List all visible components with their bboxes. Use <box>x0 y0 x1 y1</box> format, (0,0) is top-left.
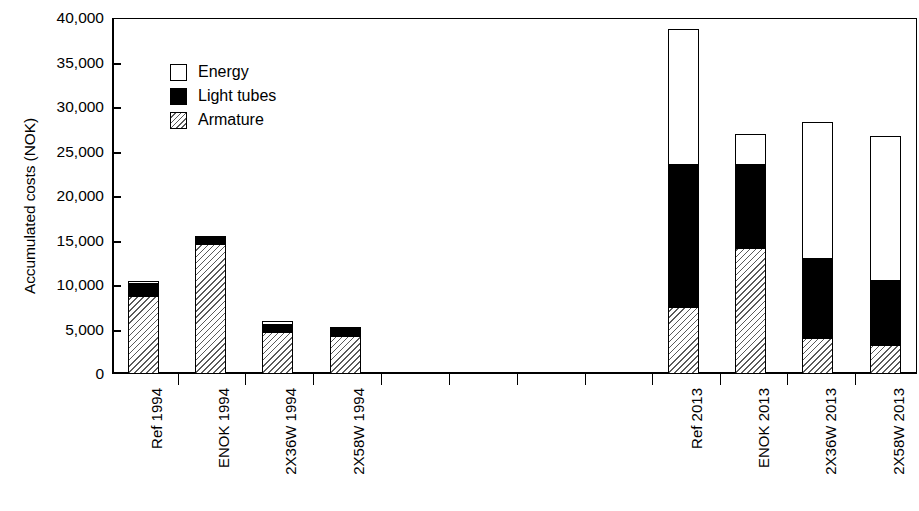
y-tick-label: 5,000 <box>34 322 104 338</box>
x-tick-mark <box>652 374 653 385</box>
y-tick-label: 35,000 <box>34 55 104 71</box>
bar-ref-1994 <box>128 18 159 374</box>
bar-segment-armature <box>262 332 293 374</box>
legend-label: Light tubes <box>198 88 276 104</box>
legend-swatch-energy-icon <box>170 64 187 81</box>
bar-segment-tubes <box>735 165 766 248</box>
bar-segment-tubes <box>262 325 293 332</box>
x-tick-mark <box>313 374 314 385</box>
bar-segment-energy <box>802 122 833 259</box>
y-tick-label: 30,000 <box>34 99 104 115</box>
x-tick-mark <box>585 374 586 385</box>
legend-swatch-light-tubes-icon <box>170 88 187 105</box>
x-tick-label: ENOK 2013 <box>756 388 771 508</box>
x-tick-mark <box>787 374 788 385</box>
bar-segment-tubes <box>668 165 699 307</box>
bar-ref-2013 <box>668 18 699 374</box>
bar-segment-tubes <box>870 281 901 345</box>
y-tick-label: 15,000 <box>34 233 104 249</box>
bar-segment-armature <box>195 244 226 374</box>
bar-segment-armature <box>330 336 361 374</box>
x-tick-mark <box>449 374 450 385</box>
x-tick-mark <box>855 374 856 385</box>
bar-segment-energy <box>735 134 766 165</box>
bar-2x58w-1994 <box>330 18 361 374</box>
bar-segment-energy <box>668 29 699 165</box>
bar-segment-tubes <box>128 284 159 296</box>
y-tick-label: 0 <box>34 366 104 382</box>
bar-2x36w-2013 <box>802 18 833 374</box>
x-tick-label: 2X58W 1994 <box>351 388 366 508</box>
legend-label: Armature <box>198 112 264 128</box>
y-tick-label: 10,000 <box>34 277 104 293</box>
y-tick-label: 40,000 <box>34 10 104 26</box>
legend-item: Armature <box>170 108 276 132</box>
bar-segment-energy <box>128 281 159 285</box>
x-tick-mark <box>720 374 721 385</box>
bar-segment-armature <box>128 296 159 374</box>
bar-enok-2013 <box>735 18 766 374</box>
y-tick-label: 25,000 <box>34 144 104 160</box>
bar-segment-armature <box>870 345 901 374</box>
bar-segment-energy <box>330 327 361 329</box>
x-tick-mark <box>381 374 382 385</box>
legend-label: Energy <box>198 64 249 80</box>
x-tick-mark <box>245 374 246 385</box>
bar-segment-armature <box>668 307 699 374</box>
y-tick-label: 20,000 <box>34 188 104 204</box>
x-tick-label: Ref 1994 <box>149 388 164 508</box>
legend: Energy Light tubes Armature <box>170 60 276 132</box>
bar-2x58w-2013 <box>870 18 901 374</box>
chart-root: Accumulated costs (NOK) 40,00035,00030,0… <box>0 0 919 511</box>
bar-segment-armature <box>735 248 766 374</box>
legend-swatch-armature-icon <box>170 112 187 129</box>
bar-segment-tubes <box>330 329 361 336</box>
legend-item: Energy <box>170 60 276 84</box>
bar-segment-armature <box>802 338 833 374</box>
x-tick-label: 2X36W 1994 <box>283 388 298 508</box>
x-tick-label: ENOK 1994 <box>216 388 231 508</box>
bar-segment-tubes <box>802 259 833 338</box>
x-tick-label: 2X36W 2013 <box>823 388 838 508</box>
bar-segment-energy <box>870 136 901 280</box>
x-tick-label: Ref 2013 <box>689 388 704 508</box>
bar-segment-energy <box>262 321 293 325</box>
x-tick-label: 2X58W 2013 <box>891 388 906 508</box>
legend-item: Light tubes <box>170 84 276 108</box>
bar-segment-tubes <box>195 236 226 244</box>
x-tick-mark <box>517 374 518 385</box>
x-tick-mark <box>178 374 179 385</box>
